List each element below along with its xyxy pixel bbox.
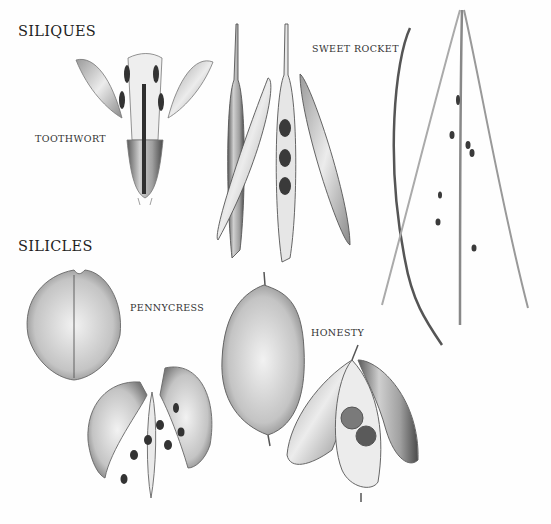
sweet-rocket-pods (382, 10, 528, 345)
silique-pods (217, 24, 350, 262)
honesty-label: HONESTY (311, 327, 364, 338)
sweet-rocket-label: SWEET ROCKET (312, 43, 399, 54)
toothwort-flower (76, 54, 213, 206)
siliques-heading: SILIQUES (18, 23, 96, 39)
silicles-heading: SILICLES (18, 238, 93, 254)
toothwort-label: TOOTHWORT (35, 133, 106, 144)
illustration-drawings (0, 0, 551, 524)
pennycress-label: PENNYCRESS (130, 302, 204, 313)
botanical-illustration: SILIQUES SILICLES TOOTHWORT SWEET ROCKET… (0, 0, 551, 524)
honesty-pods (222, 272, 418, 502)
